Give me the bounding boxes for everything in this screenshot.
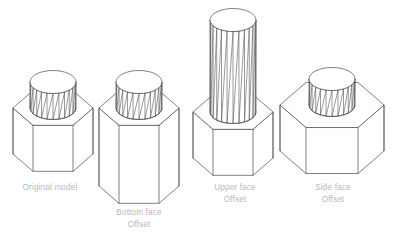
- boss-top-face: [309, 68, 355, 91]
- caption-line-2: Offset: [224, 195, 247, 204]
- cad-offset-figure: Original modelBottom faceOffsetUpper fac…: [0, 0, 395, 244]
- caption-upper-face-offset: Upper faceOffset: [214, 183, 256, 204]
- boss-top-face: [116, 71, 162, 94]
- caption-bottom-face-offset: Bottom faceOffset: [116, 208, 162, 229]
- caption-line-1: Original model: [23, 183, 78, 192]
- caption-line-1: Side face: [315, 183, 351, 192]
- boss-top-face: [210, 9, 256, 32]
- caption-line-2: Offset: [322, 195, 345, 204]
- models-layer: [13, 9, 384, 204]
- model-original-model: [13, 71, 93, 172]
- boss-facet-mesh: [210, 20, 256, 124]
- model-bottom-face-offset: [99, 71, 179, 204]
- boss-top-face: [30, 71, 76, 94]
- model-upper-face-offset: [193, 9, 273, 176]
- caption-original-model: Original model: [23, 183, 78, 192]
- caption-line-2: Offset: [128, 220, 151, 229]
- captions-layer: Original modelBottom faceOffsetUpper fac…: [23, 183, 351, 229]
- caption-line-1: Upper face: [214, 183, 256, 192]
- caption-side-face-offset: Side faceOffset: [315, 183, 351, 204]
- model-side-face-offset: [280, 68, 384, 174]
- caption-line-1: Bottom face: [116, 208, 162, 217]
